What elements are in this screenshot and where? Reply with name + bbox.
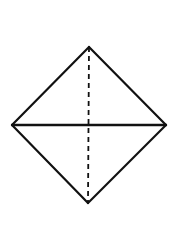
diamond-diagonals — [12, 47, 166, 203]
bottom-left-edge — [12, 125, 88, 203]
diamond-diagram — [0, 0, 195, 237]
bottom-right-edge — [88, 125, 166, 203]
top-left-edge — [12, 47, 89, 125]
diagram-canvas — [0, 0, 195, 237]
top-right-edge — [89, 47, 166, 125]
